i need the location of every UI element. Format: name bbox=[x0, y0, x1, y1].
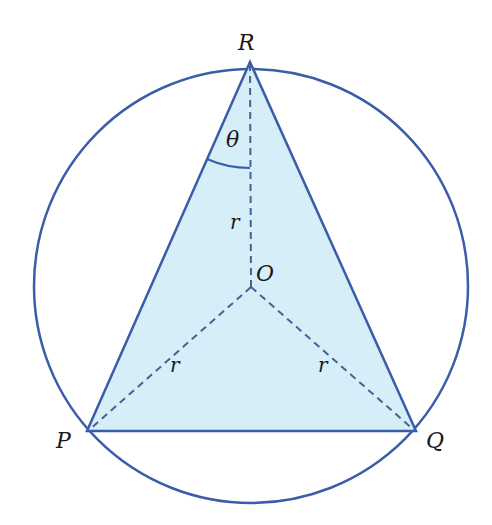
label-r-vertex: R bbox=[237, 30, 255, 55]
label-q-vertex: Q bbox=[426, 428, 444, 453]
label-p-vertex: P bbox=[55, 428, 72, 453]
label-theta: θ bbox=[226, 127, 239, 152]
label-radius-op: r bbox=[170, 353, 181, 377]
label-radius-oq: r bbox=[318, 353, 329, 377]
label-o-center: O bbox=[256, 261, 274, 286]
label-radius-or: r bbox=[230, 210, 241, 234]
circle-triangle-diagram: R P Q O θ r r r bbox=[0, 0, 492, 525]
